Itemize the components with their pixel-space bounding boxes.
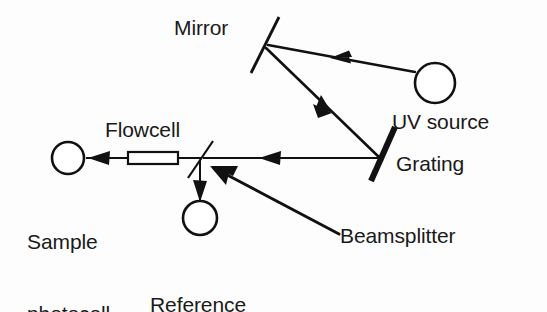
- mirror-element: [251, 17, 279, 73]
- arrowhead-uv-to-mirror-lower: [330, 57, 351, 64]
- label-sample-photocell: Sample photocell: [27, 182, 110, 312]
- label-sample-photocell-line1: Sample: [27, 230, 110, 254]
- label-grating: Grating: [396, 152, 464, 176]
- label-sample-photocell-line2: photocell: [27, 302, 110, 312]
- beamsplitter-leader-line: [210, 166, 339, 234]
- sample-photocell-element: [52, 142, 84, 174]
- label-reference-photocell: Reference photocell: [150, 245, 246, 312]
- label-flowcell: Flowcell: [105, 118, 180, 142]
- reference-photocell-element: [183, 201, 217, 235]
- arrowhead-beamsplitter-to-sample: [88, 151, 110, 165]
- beam-grating-to-beamsplitter: [203, 151, 378, 165]
- uv-source-element: [415, 63, 455, 103]
- leader-line-beamsplitter: [214, 168, 339, 234]
- beam-mirror-to-grating: [266, 48, 382, 160]
- label-uv-source: UV source: [392, 110, 489, 134]
- label-beamsplitter: Beamsplitter: [340, 224, 456, 248]
- flowcell-element: [128, 152, 178, 164]
- optical-diagram: Mirror UV source Grating Flowcell Beamsp…: [0, 0, 547, 312]
- label-mirror: Mirror: [174, 16, 228, 40]
- arrowhead-beamsplitter-to-reference: [193, 180, 207, 202]
- beam-uv-source-to-mirror: [268, 45, 415, 72]
- label-reference-photocell-line1: Reference: [150, 293, 246, 312]
- arrowhead-uv-to-mirror: [330, 51, 352, 59]
- arrowhead-grating-to-beamsplitter: [259, 151, 281, 165]
